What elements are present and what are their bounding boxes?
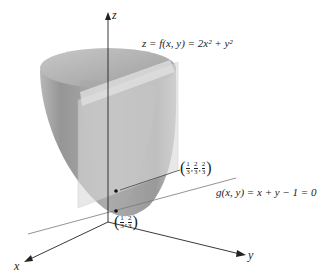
y-axis-label: y [248,249,253,261]
z-axis-label: z [112,9,117,21]
surface-point-dot [114,189,118,193]
z-axis-arrow-icon [105,12,111,20]
surface-equation: z = f(x, y) = 2x² + y² [142,38,233,49]
y-axis-arrow-icon [236,250,246,257]
plane-equation: g(x, y) = x + y − 1 = 0 [216,187,317,198]
surface-point-label: ( 13 , 23 , 23 ) [180,160,212,176]
x-axis-arrow-icon [24,255,33,262]
plane-point-label: ( 13 , 23 ) [114,214,138,230]
x-axis [28,222,108,260]
x-axis-label: x [14,260,19,272]
